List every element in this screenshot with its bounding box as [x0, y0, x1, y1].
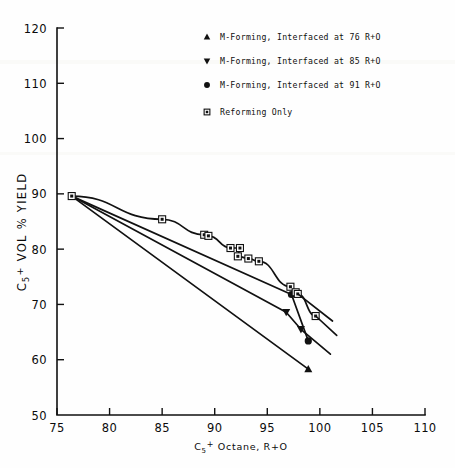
marker-circle	[204, 82, 210, 88]
x-tick-label: 85	[154, 421, 169, 435]
legend-label: M-Forming, Interfaced at 91 R+O	[220, 80, 381, 90]
y-tick-label: 70	[32, 298, 47, 312]
marker-square-dot	[234, 253, 241, 260]
y-tick-label: 50	[32, 409, 47, 423]
legend-label: M-Forming, Interfaced at 85 R+O	[220, 56, 381, 66]
x-tick-label: 75	[49, 421, 64, 435]
x-tick-label: 105	[361, 421, 384, 435]
chart-legend: M-Forming, Interfaced at 76 R+OM-Forming…	[204, 32, 381, 117]
x-tick-label: 110	[413, 421, 436, 435]
legend-item: M-Forming, Interfaced at 91 R+O	[204, 80, 381, 90]
x-tick-label: 80	[102, 421, 117, 435]
legend-item: M-Forming, Interfaced at 76 R+O	[204, 32, 381, 42]
marker-square-dot	[68, 193, 75, 200]
marker-square-dot	[159, 216, 166, 223]
series-group	[72, 196, 305, 333]
marker-square-dot	[205, 232, 212, 239]
y-tick-label: 80	[32, 243, 47, 257]
series-group	[72, 196, 312, 344]
legend-item: M-Forming, Interfaced at 85 R+O	[204, 56, 381, 66]
marker-square-dot	[236, 245, 243, 252]
y-tick-label: 100	[24, 132, 47, 146]
x-axis-tick-labels: 7580859095100105110	[49, 421, 436, 435]
x-axis-ticks	[57, 408, 425, 415]
x-axis-title: C5+ Octane, R+O	[194, 440, 288, 454]
legend-label: Reforming Only	[220, 107, 293, 117]
legend-item: Reforming Only	[204, 107, 292, 117]
marker-triangle-down	[204, 58, 211, 64]
marker-square-dot	[204, 109, 210, 115]
chart-page: 7580859095100105110 5060708090100110120 …	[0, 0, 455, 468]
y-axis-ticks	[57, 28, 64, 360]
chart-series-layer	[68, 193, 336, 373]
y-tick-label: 60	[32, 353, 47, 367]
marker-square-dot	[227, 245, 234, 252]
marker-triangle-up	[204, 34, 211, 40]
x-tick-label: 95	[260, 421, 275, 435]
svg-text:C5+ VOL % YIELD: C5+ VOL % YIELD	[14, 173, 31, 292]
y-axis-title: C5+ VOL % YIELD	[14, 173, 31, 292]
x-tick-label: 100	[308, 421, 331, 435]
y-tick-label: 110	[24, 77, 47, 91]
marker-square-dot	[245, 255, 252, 262]
marker-square-dot	[255, 258, 262, 265]
series-group	[72, 196, 313, 372]
legend-label: M-Forming, Interfaced at 76 R+O	[220, 32, 381, 42]
y-tick-label: 120	[24, 22, 47, 36]
yield-vs-octane-chart: 7580859095100105110 5060708090100110120 …	[0, 0, 455, 468]
x-tick-label: 90	[207, 421, 222, 435]
y-tick-label: 90	[32, 187, 47, 201]
